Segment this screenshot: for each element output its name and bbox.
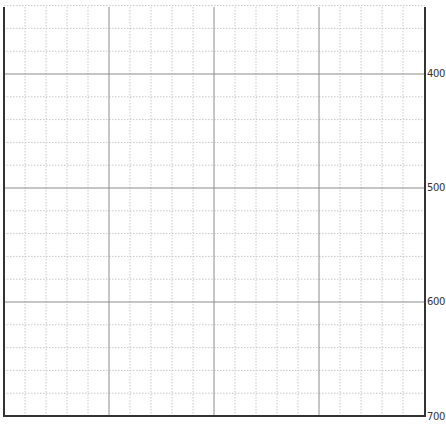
y-tick-label-400: 400	[427, 68, 445, 80]
y-tick-label-700: 700	[427, 411, 445, 423]
chart-plot-area	[0, 0, 446, 424]
y-tick-label-600: 600	[427, 296, 445, 308]
y-tick-label-500: 500	[427, 182, 445, 194]
